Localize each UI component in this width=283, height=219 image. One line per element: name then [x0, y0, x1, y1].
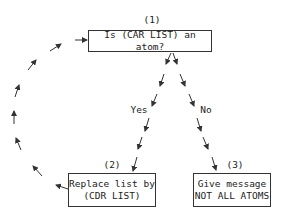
node-1-number: (1) [140, 15, 164, 25]
decision-box-car-atom: Is (CAR LIST) an atom? [88, 30, 212, 52]
edge-loop-arrow [14, 40, 87, 189]
process-box-replace-list: Replace list by (CDR LIST) [68, 173, 156, 207]
node-2-line-2: (CDR LIST) [69, 190, 155, 202]
node-3-number: (3) [223, 160, 247, 170]
node-2-line-1: Replace list by [69, 178, 155, 190]
node-3-line-1: Give message [194, 178, 270, 190]
node-1-text: Is (CAR LIST) an atom? [89, 29, 211, 53]
process-box-give-message: Give message NOT ALL ATOMS [193, 173, 271, 207]
node-2-number: (2) [100, 160, 124, 170]
node-3-line-2: NOT ALL ATOMS [194, 190, 270, 202]
edge-yes-label: Yes [128, 105, 150, 115]
edge-no-label: No [198, 105, 214, 115]
